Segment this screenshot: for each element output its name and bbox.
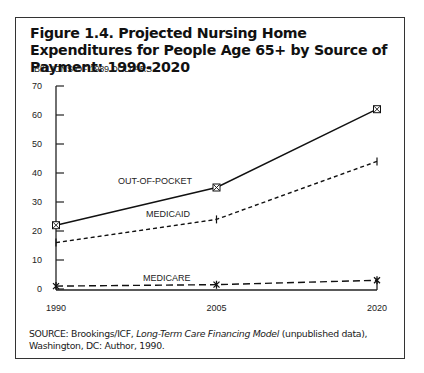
series-line-out-of-pocket xyxy=(56,109,377,225)
x-tick-label: 2005 xyxy=(206,303,226,313)
source-prefix: SOURCE: Brookings/ICF, xyxy=(29,328,136,339)
series-label-medicaid: MEDICAID xyxy=(146,209,191,219)
star-marker-icon xyxy=(374,276,380,284)
y-tick-label: 70 xyxy=(32,81,42,91)
series-label-medicare: MEDICARE xyxy=(143,273,191,283)
y-tick-label: 10 xyxy=(32,255,42,265)
line-chart: 010203040506070199020052020OUT-OF-POCKET… xyxy=(0,0,424,373)
y-tick-label: 0 xyxy=(37,284,42,294)
series-line-medicaid xyxy=(56,161,377,242)
x-tick-label: 1990 xyxy=(46,303,66,313)
y-tick-label: 60 xyxy=(32,110,42,120)
series-label-out-of-pocket: OUT-OF-POCKET xyxy=(118,176,193,186)
y-tick-label: 50 xyxy=(32,139,42,149)
source-note: SOURCE: Brookings/ICF, Long-Term Care Fi… xyxy=(29,328,399,352)
y-tick-label: 30 xyxy=(32,197,42,207)
y-tick-label: 40 xyxy=(32,168,42,178)
source-title: Long-Term Care Financing Model xyxy=(136,328,279,339)
x-tick-label: 2020 xyxy=(367,303,387,313)
y-tick-label: 20 xyxy=(32,226,42,236)
